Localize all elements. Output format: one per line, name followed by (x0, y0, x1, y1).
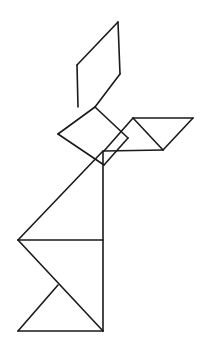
arm-bottom-edge (104, 150, 163, 151)
figure-background (0, 0, 201, 346)
ear-left-edge (77, 65, 78, 107)
tangram-figure (0, 0, 201, 346)
